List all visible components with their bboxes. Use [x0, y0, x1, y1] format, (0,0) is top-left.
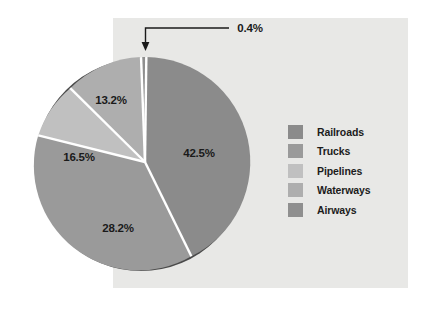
legend-item-pipelines[interactable]: Pipelines	[288, 163, 400, 178]
slice-value-label-railroads: 42.5%	[183, 147, 215, 159]
legend-item-airways[interactable]: Airways	[288, 202, 400, 217]
callout-leader-line	[146, 28, 230, 44]
legend-item-waterways[interactable]: Waterways	[288, 183, 400, 198]
legend-label-pipelines: Pipelines	[317, 165, 362, 177]
legend-swatch-waterways	[288, 183, 303, 197]
chart-screenshot: 42.5% 28.2% 16.5% 13.2% 0.4% Railroads T…	[0, 0, 427, 312]
legend-swatch-trucks	[288, 144, 303, 158]
legend-label-airways: Airways	[317, 204, 357, 216]
legend-label-waterways: Waterways	[317, 184, 371, 196]
legend-swatch-pipelines	[288, 164, 303, 178]
legend-swatch-railroads	[288, 125, 303, 139]
legend-item-trucks[interactable]: Trucks	[288, 144, 400, 159]
slice-value-label-trucks: 28.2%	[102, 222, 134, 234]
legend-label-railroads: Railroads	[317, 126, 364, 138]
legend-swatch-airways	[288, 203, 303, 217]
slice-value-label-pipelines: 16.5%	[63, 151, 95, 163]
slice-value-label-airways-callout: 0.4%	[237, 22, 262, 34]
callout-arrowhead	[142, 42, 150, 51]
slice-value-label-waterways: 13.2%	[95, 94, 127, 106]
legend-item-railroads[interactable]: Railroads	[288, 124, 400, 139]
legend-label-trucks: Trucks	[317, 145, 350, 157]
legend: Railroads Trucks Pipelines Waterways Air…	[288, 124, 400, 222]
